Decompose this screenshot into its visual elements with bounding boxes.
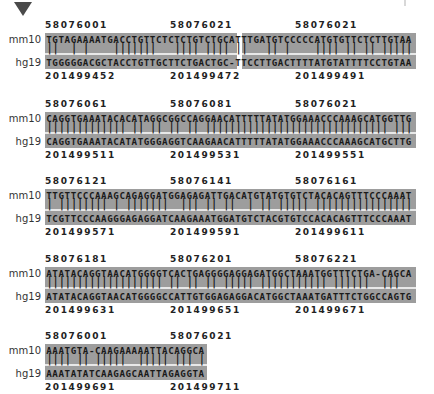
query-coordinate: 58076221 xyxy=(295,254,358,264)
species-label-hg19: hg19 xyxy=(0,291,41,302)
query-coordinate: 58076161 xyxy=(295,176,358,186)
query-coordinate: 58076021 xyxy=(295,99,358,109)
species-label-mm10: mm10 xyxy=(0,34,41,45)
species-label-hg19: hg19 xyxy=(0,57,41,68)
query-coordinate: 58076021 xyxy=(295,20,358,30)
query-coordinate: 58076081 xyxy=(170,99,233,109)
target-coordinate: 201499511 xyxy=(45,150,116,160)
target-coordinate: 201499631 xyxy=(45,305,116,315)
query-coordinate: 58076001 xyxy=(45,20,108,30)
query-coordinate: 58076001 xyxy=(45,331,108,341)
query-coordinate: 58076201 xyxy=(170,254,233,264)
species-label-mm10: mm10 xyxy=(0,345,41,356)
target-coordinate: 201499691 xyxy=(45,382,116,392)
target-coordinate: 201499571 xyxy=(45,227,116,237)
target-coordinate: 201499591 xyxy=(170,227,241,237)
match-bars: ||||||||||||| || || || || ||||||||||||||… xyxy=(46,120,412,134)
hg19-sequence: AAATATATCAAGAGCAATTAGAGGTA xyxy=(46,368,204,379)
query-coordinate: 58076141 xyxy=(170,176,233,186)
alignment-block: 580761815807620158076221mm10hg19ATATACAG… xyxy=(0,248,434,318)
alignment-block: 580760615807608158076021mm10hg19CAGGTGAA… xyxy=(0,93,434,163)
target-coordinate: 201499491 xyxy=(295,71,366,81)
alignment-block: 580760015807602158076021mm10hg19TGTAGAAA… xyxy=(0,14,434,84)
target-coordinate: 201499651 xyxy=(170,305,241,315)
hg19-sequence: ATATACAGGTAACATGGGGCCATTGTGGAGAGGACATGGC… xyxy=(46,291,412,302)
target-coordinate: 201499531 xyxy=(170,150,241,160)
hg19-sequence: TCGTTCCCAAGGGAGAGGATCAAGAAATGGATGTCTACGT… xyxy=(46,213,412,224)
hg19-sequence: TGGGGGACGCTACCTGTTGCTTCTGACTGC-TTCCTTGAC… xyxy=(46,57,412,68)
species-label-hg19: hg19 xyxy=(0,213,41,224)
match-bars: |||| || ||||| ||||| ||| | xyxy=(46,352,204,366)
match-bars: || | | ||||||| |||| |||| || || | |||| ||… xyxy=(46,41,412,55)
cursor-mark xyxy=(404,0,406,6)
query-coordinate: 58076181 xyxy=(45,254,108,264)
target-coordinate: 201499711 xyxy=(170,382,241,392)
query-coordinate: 58076021 xyxy=(170,20,233,30)
query-coordinate: 58076021 xyxy=(170,331,233,341)
alignment-block: 5807600158076021mm10hg19AAATGTA-CAAGAAAA… xyxy=(0,325,434,394)
alignment-block: 580761215807614158076161mm10hg19TTGTTCCC… xyxy=(0,170,434,240)
species-label-mm10: mm10 xyxy=(0,268,41,279)
species-label-mm10: mm10 xyxy=(0,190,41,201)
target-coordinate: 201499472 xyxy=(170,71,241,81)
species-label-hg19: hg19 xyxy=(0,136,41,147)
species-label-hg19: hg19 xyxy=(0,368,41,379)
target-coordinate: 201499671 xyxy=(295,305,366,315)
species-label-mm10: mm10 xyxy=(0,113,41,124)
hg19-sequence: CAGGTGAAATACATATGGGAGGTCAAGAACATTTTTATAT… xyxy=(46,136,412,147)
query-coordinate: 58076061 xyxy=(45,99,108,109)
target-coordinate: 201499611 xyxy=(295,227,366,237)
match-bars: | |||||||| | ||||||| ||| || || | || ||||… xyxy=(46,197,412,211)
match-bars: ||||||||||||||||||| || || || ||||| |||||… xyxy=(46,275,412,289)
target-coordinate: 201499551 xyxy=(295,150,366,160)
query-coordinate: 58076121 xyxy=(45,176,108,186)
target-coordinate: 201499452 xyxy=(45,71,116,81)
